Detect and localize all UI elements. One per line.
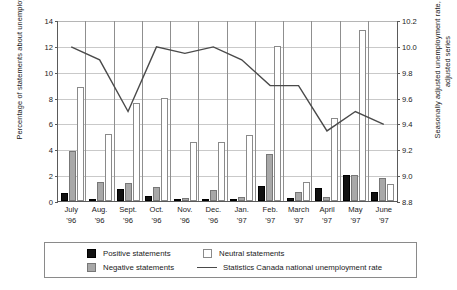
y-tick-label-right: 9.2 xyxy=(402,146,426,155)
y-tick-label-right: 9.4 xyxy=(402,120,426,129)
y-tick-label-left: 14 xyxy=(31,17,53,26)
y-tick-label-left: 0 xyxy=(31,198,53,207)
line-path xyxy=(71,47,384,131)
x-label-year: '96 xyxy=(208,216,218,225)
x-label-year: '96 xyxy=(95,216,105,225)
x-label-month: Oct. xyxy=(150,205,164,214)
x-axis-label: March'97 xyxy=(284,205,312,226)
x-label-year: '96 xyxy=(152,216,162,225)
x-label-month: Aug. xyxy=(92,205,108,214)
unemployment-rate-line xyxy=(57,21,398,202)
x-axis-label: June'97 xyxy=(370,205,398,226)
y-tick-label-right: 10.0 xyxy=(402,42,426,51)
chart-figure: Percentage of statements about unemploym… xyxy=(0,0,457,290)
x-label-year: '96 xyxy=(123,216,133,225)
chart-legend: Positive statements Negative statements … xyxy=(44,242,417,278)
line-gray-icon xyxy=(197,263,217,272)
y-tick-label-right: 9.6 xyxy=(402,94,426,103)
y-axis-title-left: Percentage of statements about unemploym… xyxy=(15,0,25,150)
x-axis-label: Dec.'96 xyxy=(199,205,227,226)
y-tick-mark-right xyxy=(397,202,400,203)
y-tick-label-right: 9.8 xyxy=(402,68,426,77)
legend-item-positive: Positive statements xyxy=(87,249,171,258)
legend-label: Negative statements xyxy=(103,263,174,272)
x-label-month: May xyxy=(348,205,362,214)
x-label-month: Nov. xyxy=(177,205,192,214)
x-label-month: Sept. xyxy=(119,205,137,214)
y-tick-label-left: 4 xyxy=(31,146,53,155)
y-axis-title-right: Seasonally adjusted unemployment rate, t… xyxy=(433,0,452,152)
x-label-year: '96 xyxy=(66,216,76,225)
x-label-year: '97 xyxy=(265,216,275,225)
swatch-white-icon xyxy=(203,249,212,258)
x-label-month: Dec. xyxy=(206,205,222,214)
x-axis-label: May'97 xyxy=(341,205,369,226)
x-label-year: '97 xyxy=(237,216,247,225)
y-tick-label-left: 6 xyxy=(31,120,53,129)
swatch-black-icon xyxy=(87,249,96,258)
y-tick-label-right: 10.2 xyxy=(402,17,426,26)
legend-item-neutral: Neutral statements xyxy=(203,249,284,258)
x-label-year: '97 xyxy=(379,216,389,225)
y-tick-mark-left xyxy=(55,202,58,203)
y-tick-label-right: 8.8 xyxy=(402,198,426,207)
x-label-month: July xyxy=(64,205,78,214)
x-axis-label: Aug.'96 xyxy=(85,205,113,226)
y-tick-label-right: 9.0 xyxy=(402,172,426,181)
legend-label: Positive statements xyxy=(103,249,171,258)
x-axis-label: July'96 xyxy=(57,205,85,226)
y-tick-label-left: 2 xyxy=(31,172,53,181)
x-axis-label: Jan.'97 xyxy=(228,205,256,226)
legend-item-negative: Negative statements xyxy=(87,263,174,272)
legend-label: Statistics Canada national unemployment … xyxy=(223,263,382,272)
x-label-month: June xyxy=(376,205,392,214)
x-axis-label: Nov.'96 xyxy=(171,205,199,226)
x-label-month: Jan. xyxy=(235,205,249,214)
x-axis-label: Feb.'97 xyxy=(256,205,284,226)
x-axis-label: Oct.'96 xyxy=(142,205,170,226)
y-tick-label-left: 8 xyxy=(31,94,53,103)
x-label-year: '96 xyxy=(180,216,190,225)
legend-item-line: Statistics Canada national unemployment … xyxy=(197,263,382,272)
legend-label: Neutral statements xyxy=(219,249,284,258)
swatch-gray-icon xyxy=(87,263,96,272)
x-label-year: '97 xyxy=(322,216,332,225)
x-label-month: Feb. xyxy=(263,205,278,214)
x-label-year: '97 xyxy=(350,216,360,225)
x-axis-label: Sept.'96 xyxy=(114,205,142,226)
x-label-month: March xyxy=(288,205,309,214)
x-axis-labels: July'96Aug.'96Sept.'96Oct.'96Nov.'96Dec.… xyxy=(57,205,398,226)
y-tick-label-left: 10 xyxy=(31,68,53,77)
x-label-year: '97 xyxy=(294,216,304,225)
x-axis-label: April'97 xyxy=(313,205,341,226)
x-label-month: April xyxy=(319,205,334,214)
y-tick-label-left: 12 xyxy=(31,42,53,51)
